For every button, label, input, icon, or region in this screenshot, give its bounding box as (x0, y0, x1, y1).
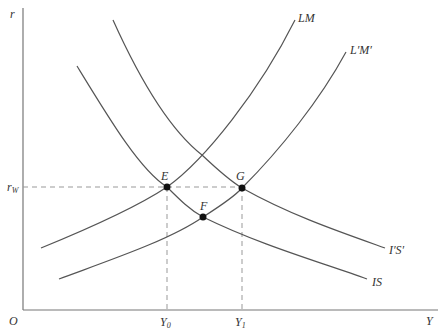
lm-shifted-label: L′M′ (349, 43, 372, 57)
lm-label: LM (297, 11, 316, 25)
point-g (239, 185, 246, 192)
is-label: IS (371, 275, 382, 289)
point-g-label: G (236, 169, 245, 183)
point-f-label: F (199, 199, 208, 213)
y1-tick-label: Y1 (235, 315, 246, 330)
is-shifted-label: I′S′ (388, 243, 405, 257)
rw-tick-label: rW (7, 180, 20, 195)
lm-curve (41, 20, 295, 248)
x-axis-label: Y (426, 314, 434, 328)
lm-shifted-curve (59, 52, 346, 279)
point-e-label: E (160, 169, 169, 183)
y-axis-label: r (10, 7, 15, 21)
point-f (200, 214, 207, 221)
point-e (164, 184, 171, 191)
y0-tick-label: Y0 (160, 315, 171, 330)
origin-label: O (9, 314, 18, 328)
is-lm-diagram: r Y O rW Y0 Y1 LM L′M′ IS I′S′ E F G (0, 0, 443, 334)
